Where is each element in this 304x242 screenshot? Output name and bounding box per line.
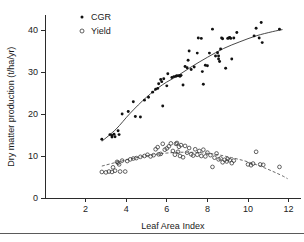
data-point — [111, 136, 114, 139]
data-point — [156, 87, 159, 90]
data-point — [235, 31, 238, 34]
data-point — [202, 83, 205, 86]
data-point — [254, 150, 258, 154]
y-tick-label-20: 20 — [28, 109, 38, 119]
data-point — [165, 84, 168, 87]
legend-marker-filled-circle-icon — [81, 16, 84, 19]
x-tick-label-8: 8 — [205, 204, 210, 214]
data-point — [201, 148, 205, 152]
data-point — [229, 37, 232, 40]
data-point — [162, 77, 165, 80]
data-point — [214, 55, 217, 58]
data-point — [217, 58, 220, 61]
data-point — [182, 84, 185, 87]
data-point — [173, 153, 177, 157]
legend-item-cgr: CGR — [81, 12, 112, 22]
x-tick-label-10: 10 — [243, 204, 253, 214]
legend-item-yield: Yield — [80, 26, 111, 36]
data-point — [161, 142, 165, 146]
data-point — [186, 66, 189, 69]
y-tick-label-30: 30 — [28, 67, 38, 77]
data-point — [180, 74, 183, 77]
data-point — [100, 138, 103, 141]
data-point — [166, 72, 169, 75]
data-point — [221, 37, 224, 40]
data-point — [224, 67, 227, 70]
fit-curve-cgr — [102, 30, 283, 142]
data-point — [114, 135, 117, 138]
series-yield — [100, 141, 288, 179]
y-axis-title: Dry matter production (t/ha/yr) — [6, 47, 16, 167]
footer-divider — [0, 233, 304, 234]
data-point — [196, 52, 199, 55]
series-cgr — [100, 21, 282, 141]
data-point — [255, 27, 258, 30]
x-tick-label-4: 4 — [124, 204, 129, 214]
y-tick-label-0: 0 — [33, 193, 38, 203]
data-point — [190, 68, 193, 71]
y-tick-label-40: 40 — [28, 25, 38, 35]
data-point — [151, 91, 154, 94]
data-point — [230, 58, 233, 61]
data-point — [195, 153, 199, 157]
x-tick-label-6: 6 — [164, 204, 169, 214]
data-point — [278, 28, 281, 31]
data-point — [139, 115, 142, 118]
data-point — [221, 160, 225, 164]
data-point — [200, 37, 203, 40]
data-point — [197, 149, 201, 153]
data-point — [117, 129, 120, 132]
data-point — [147, 96, 150, 99]
data-point — [232, 37, 235, 40]
data-point — [211, 165, 215, 169]
data-point — [183, 144, 187, 148]
x-axis-title: Leaf Area Index — [141, 221, 205, 231]
data-point — [113, 133, 116, 136]
data-point — [230, 161, 234, 165]
data-series-group — [100, 21, 288, 179]
data-point — [134, 115, 137, 118]
scatter-chart: 24681012010203040 CGRYield Leaf Area Ind… — [0, 0, 304, 242]
data-point — [143, 99, 146, 102]
data-point — [217, 55, 220, 58]
data-point — [121, 113, 124, 116]
data-point — [160, 80, 163, 83]
data-point — [187, 146, 191, 150]
data-point — [218, 60, 221, 63]
y-tick-label-10: 10 — [28, 151, 38, 161]
axes-group: 24681012010203040 — [28, 15, 301, 214]
data-point — [123, 170, 127, 174]
data-point — [213, 156, 217, 160]
data-point — [157, 82, 160, 85]
data-point — [261, 41, 264, 44]
data-point — [193, 147, 197, 151]
data-point — [204, 155, 208, 159]
legend-label: Yield — [91, 26, 111, 36]
data-point — [118, 170, 122, 174]
legend-label: CGR — [91, 12, 112, 22]
data-point — [175, 141, 179, 145]
x-tick-label-2: 2 — [83, 204, 88, 214]
data-point — [132, 100, 135, 103]
data-point — [219, 47, 222, 50]
data-point — [253, 34, 256, 37]
data-point — [208, 52, 211, 55]
data-point — [176, 150, 180, 154]
data-point — [185, 151, 189, 155]
data-point — [118, 133, 121, 136]
data-point — [161, 105, 164, 108]
data-point — [127, 110, 130, 113]
chart-legend: CGRYield — [80, 12, 112, 36]
data-point — [187, 59, 190, 62]
data-point — [278, 165, 282, 169]
data-point — [260, 21, 263, 24]
legend-marker-open-circle-icon — [80, 29, 84, 33]
data-point — [232, 159, 236, 163]
data-point — [169, 142, 173, 146]
data-point — [216, 51, 219, 54]
data-point — [193, 66, 196, 69]
x-tick-label-12: 12 — [284, 204, 294, 214]
data-point — [197, 37, 200, 40]
data-point — [100, 170, 104, 174]
data-point — [201, 70, 204, 73]
